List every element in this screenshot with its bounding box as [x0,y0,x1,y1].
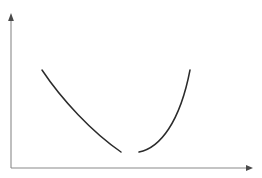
x-axis-arrow-icon [246,165,253,171]
curve-sketch-figure [0,0,262,178]
curve-left-branch [42,70,121,152]
curve-right-branch [139,70,190,152]
y-axis-arrow-icon [8,13,14,21]
figure-canvas [0,0,262,178]
